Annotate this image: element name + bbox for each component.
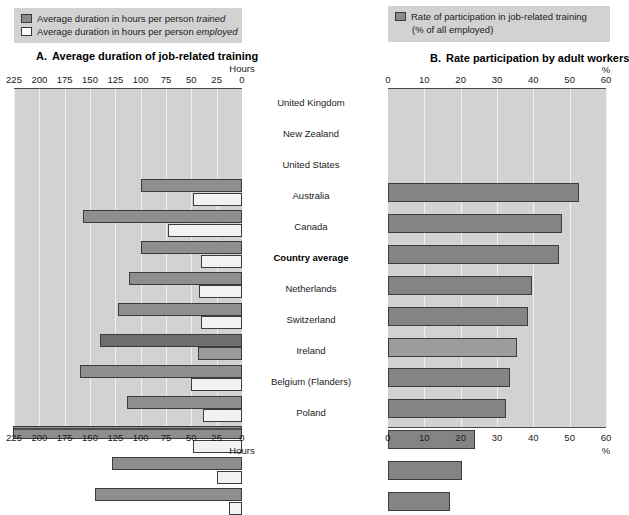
country-label: Belgium (Flanders) — [250, 376, 372, 387]
axis-tick-label: 50 — [564, 74, 575, 85]
gridline — [39, 89, 40, 428]
panel-b-plot-area — [388, 88, 606, 428]
axis-tick-label: 30 — [492, 432, 503, 443]
gridline — [606, 89, 607, 427]
legend-label-employed: Average duration in hours per person emp… — [37, 26, 238, 37]
legend-item-employed: Average duration in hours per person emp… — [21, 26, 236, 37]
legend-swatch-employed-icon — [21, 27, 32, 36]
axis-tick-label: 40 — [528, 432, 539, 443]
axis-tick-label: 0 — [239, 432, 244, 443]
bar-employed — [203, 409, 242, 422]
axis-tick-label: 60 — [601, 74, 612, 85]
bar-trained — [118, 303, 242, 316]
axis-tick-label: 75 — [161, 432, 172, 443]
bar-rate — [388, 399, 506, 418]
legend-panel-b: Rate of participation in job-related tra… — [388, 6, 610, 42]
axis-tick-label: 175 — [57, 432, 73, 443]
bar-employed — [201, 255, 242, 268]
bar-trained — [80, 365, 242, 378]
axis-tick-label: 50 — [564, 432, 575, 443]
bar-rate — [388, 492, 450, 511]
bar-employed — [229, 502, 242, 515]
axis-tick-label: 20 — [455, 74, 466, 85]
country-label: New Zealand — [250, 128, 372, 139]
axis-tick-label: 60 — [601, 432, 612, 443]
bar-rate — [388, 214, 562, 233]
axis-tick-label: 100 — [133, 432, 149, 443]
gridline — [14, 89, 15, 428]
panel-a: Average duration in hours per person tra… — [0, 0, 250, 470]
bar-trained — [141, 179, 242, 192]
bar-trained — [100, 334, 242, 347]
panel-b-axis-bottom: 0102030405060% — [372, 432, 623, 444]
legend-label-rate-sub: (% of all employed) — [412, 24, 604, 35]
country-label: United Kingdom — [250, 97, 372, 108]
legend-swatch-rate-icon — [395, 12, 406, 21]
bar-trained — [129, 272, 242, 285]
panel-b: Rate of participation in job-related tra… — [372, 0, 623, 470]
bar-rate — [388, 368, 510, 387]
bar-employed — [217, 471, 242, 484]
axis-tick-label: 150 — [82, 74, 98, 85]
legend-panel-a: Average duration in hours per person tra… — [14, 8, 242, 43]
panel-a-baseline — [14, 428, 242, 430]
bar-employed — [193, 193, 242, 206]
country-label: Canada — [250, 221, 372, 232]
country-label: Ireland — [250, 345, 372, 356]
axis-tick-label: 75 — [161, 74, 172, 85]
bar-rate — [388, 338, 517, 357]
gridline — [65, 89, 66, 428]
axis-unit-label: % — [602, 445, 610, 456]
panel-b-letter: B. — [430, 52, 441, 64]
bar-employed — [168, 224, 242, 237]
panel-a-letter: A. — [36, 50, 47, 62]
panel-b-title: B.Rate participation by adult workers — [430, 52, 629, 64]
panel-a-axis-top: 2252001751501251007550250Hours — [0, 74, 250, 86]
axis-tick-label: 100 — [133, 74, 149, 85]
axis-tick-label: 0 — [385, 74, 390, 85]
panel-a-axis-bottom: 2252001751501251007550250Hours — [0, 432, 250, 444]
legend-item-rate: Rate of participation in job-related tra… — [395, 11, 604, 22]
legend-swatch-trained-icon — [21, 14, 32, 23]
panel-a-plot-area — [14, 88, 242, 428]
bar-trained — [83, 210, 242, 223]
country-label: Switzerland — [250, 314, 372, 325]
country-label: Netherlands — [250, 283, 372, 294]
bar-trained — [112, 457, 242, 470]
axis-tick-label: 225 — [6, 432, 22, 443]
axis-tick-label: 10 — [419, 74, 430, 85]
bar-rate — [388, 183, 579, 202]
bar-employed — [199, 285, 242, 298]
axis-unit-label: % — [602, 64, 610, 75]
gridline — [570, 89, 571, 427]
axis-tick-label: 125 — [107, 432, 123, 443]
country-label: United States — [250, 159, 372, 170]
country-label: Poland — [250, 407, 372, 418]
bar-rate — [388, 245, 559, 264]
axis-tick-label: 225 — [6, 74, 22, 85]
country-label: Australia — [250, 190, 372, 201]
axis-tick-label: 25 — [211, 432, 222, 443]
bar-employed — [198, 347, 242, 360]
axis-tick-label: 200 — [31, 432, 47, 443]
axis-tick-label: 150 — [82, 432, 98, 443]
axis-tick-label: 125 — [107, 74, 123, 85]
axis-tick-label: 20 — [455, 432, 466, 443]
legend-item-trained: Average duration in hours per person tra… — [21, 13, 236, 24]
panel-a-title-text: Average duration of job-related training — [52, 50, 258, 62]
bar-rate — [388, 307, 528, 326]
bar-trained — [141, 241, 242, 254]
axis-tick-label: 0 — [239, 74, 244, 85]
axis-tick-label: 0 — [385, 432, 390, 443]
panel-b-axis-top: 0102030405060% — [372, 74, 623, 86]
legend-label-trained: Average duration in hours per person tra… — [37, 13, 225, 24]
bar-rate — [388, 461, 462, 480]
legend-label-rate: Rate of participation in job-related tra… — [411, 11, 587, 22]
axis-tick-label: 200 — [31, 74, 47, 85]
bar-trained — [127, 396, 242, 409]
bar-employed — [201, 316, 242, 329]
axis-tick-label: 40 — [528, 74, 539, 85]
axis-tick-label: 50 — [186, 432, 197, 443]
panel-b-title-text: Rate participation by adult workers — [446, 52, 629, 64]
